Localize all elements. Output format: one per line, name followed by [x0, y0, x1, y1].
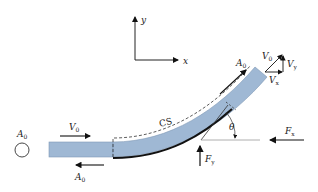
velocity-vy-label: Vy: [287, 59, 298, 71]
control-surface-label: CS: [158, 116, 173, 129]
velocity-v0-label: V0: [262, 51, 273, 62]
inlet-area-label: A0: [16, 129, 28, 140]
jet-straight-section: [49, 142, 113, 157]
force-y-label: Fy: [204, 154, 215, 166]
angle-label: θ: [229, 122, 235, 132]
inlet-area-force-label: A0: [74, 172, 86, 183]
outlet-area-label: A0: [235, 58, 247, 69]
inlet-velocity-label: V0: [69, 122, 80, 133]
force-x-label: Fx: [284, 126, 295, 137]
velocity-vx-label: Vx: [269, 75, 280, 86]
velocity-triangle: V0 Vx Vy: [262, 51, 298, 86]
nozzle-circle-icon: [15, 143, 29, 157]
coordinate-axes: y x: [135, 15, 188, 66]
y-axis-label: y: [140, 15, 147, 25]
jet-vane-diagram: y x A0 θ V0 A0 CS A0 V0 Vx Vy Fx Fy: [0, 0, 318, 192]
nozzle-cross-section: A0: [15, 129, 29, 157]
jet-curved-section: [113, 67, 267, 157]
x-axis-label: x: [183, 56, 188, 66]
